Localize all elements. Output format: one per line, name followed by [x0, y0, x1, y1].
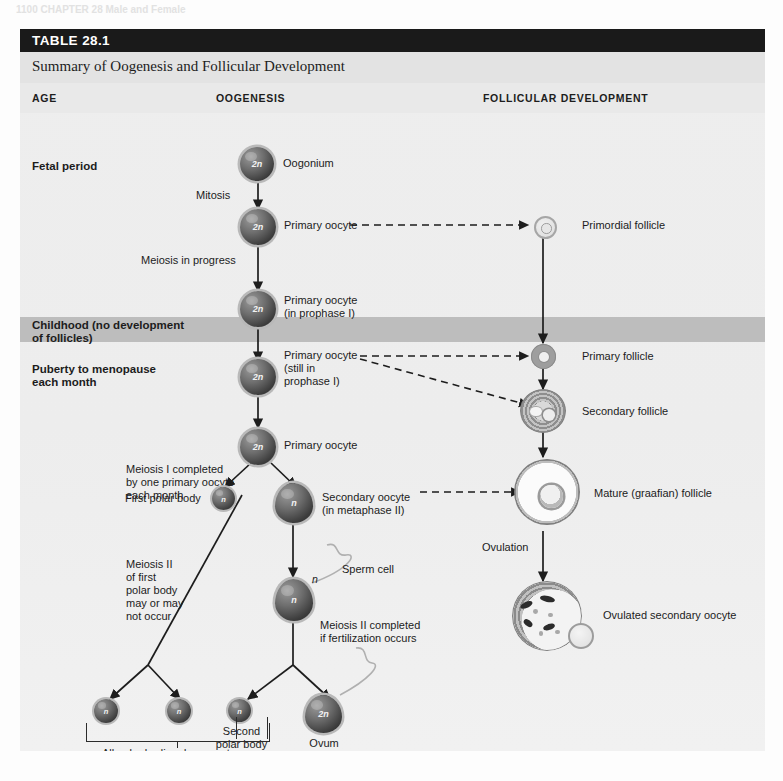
ovulated-granule-2 — [548, 613, 552, 617]
diagram-canvas: Fetal period Childhood (no development o… — [20, 113, 765, 751]
cell-primary-oocyte-1: 2n — [240, 209, 276, 245]
follicle-primordial — [534, 216, 557, 239]
cell-secondary-oocyte: n — [275, 483, 313, 523]
ploidy-polar-body-a: n — [94, 707, 118, 716]
follicle-secondary — [520, 389, 566, 433]
arrow-to-ovum — [293, 665, 330, 699]
table-title-row: Summary of Oogenesis and Follicular Deve… — [20, 52, 765, 83]
ovulated-clot-4 — [542, 623, 555, 632]
ploidy-fertilized-oocyte: n — [275, 595, 313, 605]
ploidy-primary-oocyte-2: 2n — [240, 304, 276, 314]
ovulated-clot-1 — [520, 600, 534, 611]
label-ovulation: Ovulation — [482, 541, 528, 554]
ploidy-primary-oocyte-3: 2n — [240, 372, 276, 382]
primary-follicle-oocyte — [539, 352, 549, 362]
cell-polar-body-a: n — [94, 699, 118, 723]
fertilization-leader-line — [340, 648, 375, 695]
table-title: Summary of Oogenesis and Follicular Deve… — [32, 58, 345, 75]
primordial-nucleus — [541, 223, 551, 233]
cell-first-polar-body: n — [212, 487, 235, 510]
cell-oogonium: 2n — [240, 147, 274, 181]
label-sperm-cell: Sperm cell — [342, 563, 394, 576]
figure-page: 1100 CHAPTER 28 Male and Female that a m… — [0, 0, 783, 781]
label-sperm-ploidy: n — [312, 573, 318, 586]
label-meiosis-in-progress: Meiosis in progress — [141, 254, 236, 267]
cell-primary-oocyte-2: 2n — [240, 291, 276, 327]
label-meiosis-ii-completed: Meiosis II completed if fertilization oc… — [320, 619, 420, 645]
follicle-primary — [531, 344, 556, 369]
age-stage-childhood: Childhood (no development of follicles) — [32, 319, 184, 345]
ploidy-first-polar-body: n — [212, 494, 235, 503]
table-header-bar: TABLE 28.1 — [20, 29, 765, 52]
age-stage-puberty: Puberty to menopause each month — [32, 363, 156, 389]
label-secondary-oocyte: Secondary oocyte (in metaphase II) — [322, 491, 410, 517]
cell-polar-body-b: n — [167, 699, 191, 723]
secondary-follicle-oocyte — [543, 409, 555, 420]
mature-follicle-cumulus — [540, 485, 562, 507]
label-ovulated-secondary-oocyte: Ovulated secondary oocyte — [603, 609, 736, 622]
label-primary-oocyte-2: Primary oocyte (in prophase I) — [284, 294, 357, 320]
ploidy-primary-oocyte-1: 2n — [240, 222, 276, 232]
label-primary-oocyte-1: Primary oocyte — [284, 219, 357, 232]
label-secondary-follicle: Secondary follicle — [582, 405, 668, 418]
ploidy-polar-body-b: n — [167, 707, 191, 716]
ovulated-granule-4 — [555, 630, 559, 634]
arrow-to-polar-body-a — [110, 665, 148, 699]
follicle-mature — [514, 459, 580, 525]
ovulated-granule-1 — [533, 609, 538, 614]
ploidy-ovum: 2n — [305, 709, 342, 719]
label-mature-follicle: Mature (graafian) follicle — [594, 487, 712, 500]
ovulated-granule-3 — [539, 631, 544, 636]
label-meiosis-ii-polar-body: Meiosis II of first polar body may or ma… — [126, 558, 183, 623]
ploidy-primary-oocyte-4: 2n — [240, 442, 276, 452]
arrow-to-polar-body-b — [148, 665, 180, 699]
bracket-polar-bodies — [86, 723, 270, 742]
secondary-follicle-antrum — [530, 407, 542, 417]
ploidy-second-polar-body: n — [228, 706, 251, 715]
label-primordial-follicle: Primordial follicle — [582, 219, 665, 232]
column-header-oogenesis: OOGENESIS — [216, 92, 285, 104]
label-first-polar-body: First polar body — [125, 492, 201, 505]
label-primary-oocyte-4: Primary oocyte — [284, 439, 357, 452]
ploidy-secondary-oocyte: n — [275, 498, 313, 508]
table-number: TABLE 28.1 — [32, 33, 110, 48]
column-header-follicular: FOLLICULAR DEVELOPMENT — [483, 92, 648, 104]
column-header-age: AGE — [32, 92, 57, 104]
label-ovum: Ovum — [306, 737, 342, 750]
column-header-row: AGE OOGENESIS FOLLICULAR DEVELOPMENT — [20, 83, 765, 113]
label-primary-follicle: Primary follicle — [582, 350, 654, 363]
cell-primary-oocyte-3: 2n — [240, 359, 276, 395]
label-all-polar-bodies-degenerate: All polar bodies degenerate — [102, 747, 236, 751]
ovulated-clot-2 — [540, 595, 556, 604]
arrow-to-second-polar-body — [248, 665, 293, 699]
ovulated-clot-3 — [522, 618, 534, 629]
label-primary-oocyte-3: Primary oocyte (still in prophase I) — [284, 349, 357, 388]
running-head: 1100 CHAPTER 28 Male and Female — [16, 4, 186, 15]
table-28-1: TABLE 28.1 Summary of Oogenesis and Foll… — [20, 29, 765, 751]
cell-primary-oocyte-4: 2n — [240, 429, 276, 465]
connector-layer — [20, 113, 765, 751]
label-oogonium: Oogonium — [283, 157, 334, 170]
cell-ovum: 2n — [305, 695, 342, 733]
released-oocyte — [568, 623, 594, 649]
dashed-arrow-to-secondary-follicle — [360, 359, 528, 405]
age-stage-fetal: Fetal period — [32, 160, 97, 173]
cell-fertilized-oocyte: n — [275, 579, 313, 621]
ploidy-oogonium: 2n — [240, 159, 274, 169]
label-mitosis: Mitosis — [196, 189, 230, 202]
